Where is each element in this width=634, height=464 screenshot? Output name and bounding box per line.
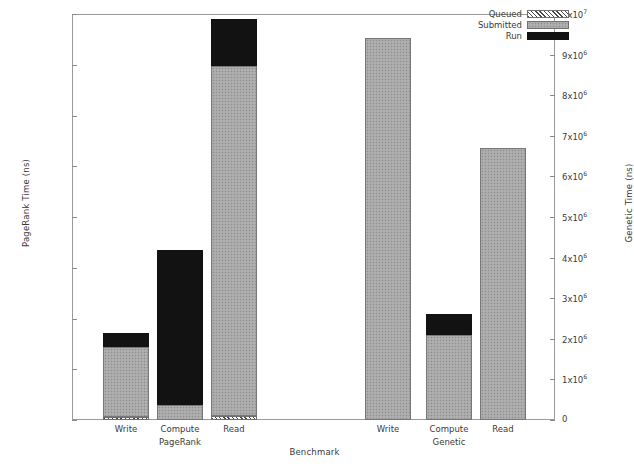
y-axis-title: PageRank Time (ns) xyxy=(21,133,31,273)
x-group-label-genetic: Genetic xyxy=(389,437,509,447)
y-tick-mark xyxy=(72,116,77,117)
legend-item-queued: Queued xyxy=(478,9,569,19)
bar-segment-submitted xyxy=(426,335,472,420)
x-tick-label: Read xyxy=(463,424,543,434)
y2-tick-label: 2x106 xyxy=(562,334,587,344)
y2-tick-label: 7x106 xyxy=(562,131,587,141)
legend-label: Queued xyxy=(489,10,522,19)
y2-tick-label: 0 xyxy=(562,415,567,424)
y2-tick-mark xyxy=(550,420,555,421)
y-tick-mark xyxy=(72,268,77,269)
x-axis-title: Benchmark xyxy=(0,447,629,457)
y2-tick-label: 8x106 xyxy=(562,90,587,100)
y2-tick-mark xyxy=(550,217,555,218)
legend-label: Submitted xyxy=(478,21,522,30)
bar-pagerank-write xyxy=(103,333,149,420)
y-tick-mark xyxy=(72,420,77,421)
y2-tick-label: 1x106 xyxy=(562,374,587,384)
chart-legend: QueuedSubmittedRun xyxy=(478,9,569,41)
y-tick-mark xyxy=(72,217,77,218)
legend-swatch-run xyxy=(527,32,569,40)
bar-genetic-compute xyxy=(426,314,472,420)
y2-tick-mark xyxy=(550,379,555,380)
y2-tick-label: 6x106 xyxy=(562,171,587,181)
y2-tick-mark xyxy=(550,176,555,177)
y-tick-mark xyxy=(72,65,77,66)
bar-segment-submitted xyxy=(211,66,257,416)
bar-segment-queued xyxy=(103,417,149,420)
y-tick-mark xyxy=(72,14,77,15)
y2-tick-mark xyxy=(550,298,555,299)
bar-segment-submitted xyxy=(103,347,149,417)
bar-segment-run xyxy=(211,19,257,66)
y2-tick-mark xyxy=(550,55,555,56)
bar-pagerank-compute xyxy=(157,250,203,420)
legend-item-submitted: Submitted xyxy=(478,20,569,30)
y2-tick-label: 5x106 xyxy=(562,212,587,222)
bar-segment-run xyxy=(157,250,203,405)
bar-segment-submitted xyxy=(365,38,411,420)
bar-segment-queued xyxy=(211,416,257,420)
y2-tick-label: 4x106 xyxy=(562,253,587,263)
y2-tick-label: 9x106 xyxy=(562,50,587,60)
legend-swatch-submitted xyxy=(527,21,569,29)
bar-segment-run xyxy=(103,333,149,347)
x-tick-label: Read xyxy=(194,424,274,434)
y-tick-mark xyxy=(72,166,77,167)
y-tick-mark xyxy=(72,369,77,370)
y2-tick-mark xyxy=(550,339,555,340)
y2-tick-mark xyxy=(550,258,555,259)
bar-genetic-write xyxy=(365,38,411,420)
y-tick-mark xyxy=(72,319,77,320)
bar-genetic-read xyxy=(480,148,526,420)
legend-item-run: Run xyxy=(478,31,569,41)
x-group-label-pagerank: PageRank xyxy=(120,437,240,447)
bar-segment-run xyxy=(426,314,472,335)
legend-label: Run xyxy=(506,32,522,41)
y2-tick-mark xyxy=(550,95,555,96)
legend-swatch-queued xyxy=(527,10,569,18)
bar-segment-submitted xyxy=(480,148,526,420)
y2-tick-label: 3x106 xyxy=(562,293,587,303)
bar-pagerank-read xyxy=(211,19,257,420)
bar-segment-submitted xyxy=(157,405,203,420)
y2-tick-mark xyxy=(550,136,555,137)
y2-axis-title: Genetic Time (ns) xyxy=(624,133,634,273)
